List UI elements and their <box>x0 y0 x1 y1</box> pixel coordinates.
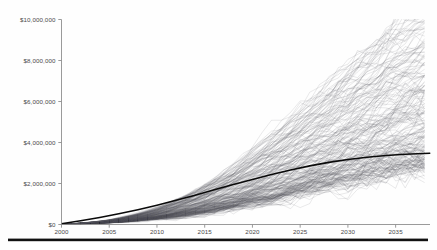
simulation-path <box>62 91 425 224</box>
x-tick-label: 2030 <box>341 228 356 235</box>
simulation-path <box>62 21 425 225</box>
simulation-path <box>62 21 425 224</box>
y-axis-ticks: $0$2,000,000$4,000,000$6,000,000$8,000,0… <box>20 16 62 228</box>
x-tick-label: 2035 <box>389 228 404 235</box>
x-axis-ticks: 20002005201020152020202520302035 <box>54 225 403 236</box>
y-tick-label: $8,000,000 <box>24 57 56 64</box>
chart-screenshot: $0$2,000,000$4,000,000$6,000,000$8,000,0… <box>0 0 437 250</box>
x-tick-label: 2015 <box>198 228 213 235</box>
x-tick-label: 2000 <box>54 228 69 235</box>
x-tick-label: 2005 <box>102 228 117 235</box>
y-tick-label: $0 <box>48 221 56 228</box>
y-tick-label: $4,000,000 <box>24 139 56 146</box>
y-tick-label: $10,000,000 <box>20 16 56 23</box>
footer-rule-bar <box>8 239 428 242</box>
monte-carlo-fan-chart: $0$2,000,000$4,000,000$6,000,000$8,000,0… <box>0 0 437 250</box>
simulation-paths-group <box>62 0 425 224</box>
x-tick-label: 2025 <box>293 228 308 235</box>
y-tick-label: $6,000,000 <box>24 98 56 105</box>
y-tick-label: $2,000,000 <box>24 180 56 187</box>
x-tick-label: 2010 <box>150 228 165 235</box>
x-tick-label: 2020 <box>245 228 260 235</box>
